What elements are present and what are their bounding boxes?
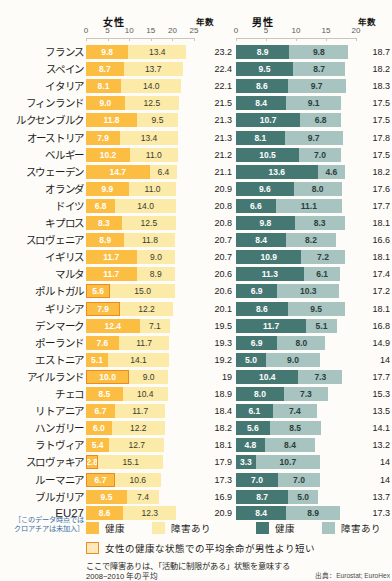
male-axis-tickmark [356,38,357,41]
male-disabled-segment: 8.0 [277,336,325,350]
male-stacked-bar: 4.88.4 [236,438,315,452]
male-disabled-segment: 9.1 [286,96,341,110]
eu27-footnote-line1: ［このデータ時点では [0,515,84,524]
female-stacked-bar: 10.09.0 [86,370,168,384]
male-healthy-segment: 4.8 [236,438,265,452]
female-disabled-segment: 14.0 [115,199,175,213]
legend-label-male-healthy: 健康 [275,521,295,535]
male-healthy-segment: 10.4 [236,370,298,384]
female-healthy-segment: 9.5 [86,490,127,504]
female-stacked-bar: 7.611.7 [86,336,169,350]
male-disabled-segment: 7.3 [298,370,342,384]
female-disabled-segment: 12.2 [120,302,173,316]
female-healthy-segment: 10.2 [86,148,130,162]
female-healthy-segment: 8.9 [86,233,124,247]
male-stacked-bar: 5.68.5 [236,421,321,435]
male-disabled-segment: 10.3 [277,284,339,298]
female-axis-tick: 10 [125,26,134,35]
female-disabled-segment: 14.0 [121,79,181,93]
legend-swatch-male-disabled-icon [322,522,335,534]
female-axis-tickmark [129,38,130,41]
female-stacked-bar: 9.813.4 [86,45,186,59]
female-disabled-segment: 11.7 [115,404,166,418]
male-axis-tick: 10 [292,26,301,35]
legend-swatch-female-healthy-icon [86,522,99,534]
legend-label-highlight: 女性の健康な状態での平均余命が男性より短い [105,541,315,555]
female-disabled-segment: 12.2 [112,421,165,435]
male-disabled-segment: 6.8 [300,113,341,127]
male-healthy-segment: 13.6 [236,165,318,179]
female-disabled-segment: 8.9 [137,267,175,281]
female-x-axis: 0510152025 [86,26,194,40]
female-axis-tickmark [172,38,173,41]
male-stacked-bar: 5.09.0 [236,353,320,367]
female-healthy-segment: 8.6 [86,506,123,520]
eu27-footnote-line2: クロアチアは未加入］ [0,524,84,533]
female-stacked-bar: 11.78.9 [86,267,175,281]
female-disabled-segment: 12.5 [122,216,176,230]
chart-period: 2008−2010 年の平均 [86,570,158,581]
female-disabled-segment: 13.7 [124,62,183,76]
male-healthy-segment: 8.6 [236,302,288,316]
legend-female-disabled: 障害あり [152,521,211,535]
male-disabled-segment: 4.6 [318,165,346,179]
female-axis-tick: 25 [190,26,199,35]
male-stacked-bar: 9.88.3 [236,216,345,230]
female-stacked-bar: 12.47.1 [86,319,170,333]
female-healthy-segment: 12.4 [86,319,140,333]
female-axis-tickmark [86,38,87,41]
male-disabled-segment: 8.2 [286,233,335,247]
male-disabled-segment: 11.1 [276,199,343,213]
male-disabled-segment: 7.2 [301,250,344,264]
male-disabled-segment: 9.7 [288,79,346,93]
male-axis-tick: 5 [264,26,268,35]
female-stacked-bar: 2.815.1 [86,455,163,469]
legend-swatch-male-healthy-icon [256,522,269,534]
male-axis-tickmark [296,38,297,41]
male-x-axis: 05101520 [236,26,356,40]
female-stacked-bar: 5.114.1 [86,353,169,367]
female-axis-tick: 20 [168,26,177,35]
female-stacked-bar: 10.211.0 [86,148,178,162]
male-stacked-bar: 8.19.7 [236,131,343,145]
female-stacked-bar: 11.89.5 [86,113,178,127]
female-healthy-segment: 11.7 [86,267,137,281]
male-stacked-bar: 8.75.0 [236,490,318,504]
male-healthy-segment: 9.5 [236,62,293,76]
male-healthy-segment: 11.3 [236,267,304,281]
male-stacked-bar: 8.48.9 [236,506,340,520]
female-disabled-segment: 9.5 [137,113,178,127]
male-disabled-segment: 8.7 [293,62,345,76]
male-stacked-bar: 11.36.1 [236,267,340,281]
female-disabled-segment: 10.6 [115,473,161,487]
female-stacked-bar: 6.710.6 [86,473,161,487]
male-healthy-segment: 8.4 [236,506,286,520]
male-healthy-segment: 8.6 [236,79,288,93]
male-disabled-segment: 9.0 [266,353,320,367]
female-years-header: 年数 [196,15,214,27]
male-stacked-bar: 3.310.7 [236,455,320,469]
male-healthy-segment: 5.6 [236,421,270,435]
male-stacked-bar: 8.99.8 [236,45,348,59]
male-disabled-segment: 8.5 [270,421,321,435]
legend-male-healthy: 健康 [256,521,295,535]
male-healthy-segment: 7.0 [236,473,278,487]
legend-swatch-female-disabled-icon [152,522,165,534]
legend-label-female-disabled: 障害あり [171,521,211,535]
male-healthy-segment: 8.4 [236,96,286,110]
male-axis-tick: 20 [352,26,361,35]
female-disabled-segment: 11.0 [129,182,177,196]
female-disabled-segment: 15.0 [110,284,175,298]
female-axis-tickmark [108,38,109,41]
female-healthy-segment: 7.6 [86,336,119,350]
female-healthy-segment: 9.8 [86,45,128,59]
male-axis-tickmark [236,38,237,41]
female-stacked-bar: 6.711.7 [86,404,165,418]
male-stacked-bar: 6.611.1 [236,199,342,213]
male-healthy-segment: 6.9 [236,284,277,298]
female-healthy-segment: 9.9 [86,182,129,196]
female-healthy-segment: 7.9 [86,302,120,316]
male-disabled-segment: 8.0 [294,182,342,196]
male-stacked-bar: 7.07.0 [236,473,320,487]
